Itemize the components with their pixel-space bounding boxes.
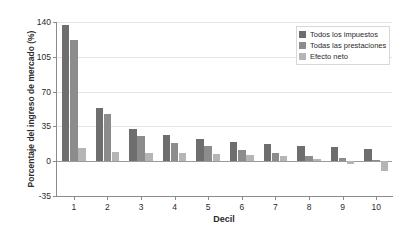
- bar: [204, 146, 212, 161]
- bar: [213, 154, 221, 161]
- x-tick-label: 3: [139, 202, 144, 212]
- legend-item: Todos los impuestos: [299, 29, 386, 40]
- bar-group: [129, 22, 153, 196]
- chart-legend: Todos los impuestosTodas las prestacione…: [296, 26, 390, 65]
- bar: [297, 146, 305, 161]
- bar: [112, 152, 120, 161]
- x-tick-label: 4: [172, 202, 177, 212]
- x-tick-label: 7: [273, 202, 278, 212]
- bar: [163, 135, 171, 161]
- y-tick-label: 140: [37, 17, 51, 27]
- bar-group: [62, 22, 86, 196]
- bar: [62, 25, 70, 161]
- x-tick-label: 5: [206, 202, 211, 212]
- legend-swatch-icon: [299, 53, 306, 60]
- bar: [238, 150, 246, 161]
- y-tick-label: 0: [46, 156, 51, 166]
- bar: [313, 159, 321, 161]
- y-tick-mark: [53, 22, 57, 23]
- y-tick-mark: [53, 57, 57, 58]
- bar: [381, 161, 389, 171]
- legend-swatch-icon: [299, 42, 306, 49]
- x-tick-label: 9: [340, 202, 345, 212]
- legend-label: Efecto neto: [310, 51, 348, 62]
- x-axis-title: Decil: [56, 214, 392, 224]
- y-tick-mark: [53, 126, 57, 127]
- y-tick-label: 70: [42, 87, 51, 97]
- bar-group: [163, 22, 187, 196]
- y-tick-mark: [53, 92, 57, 93]
- x-tick-label: 6: [239, 202, 244, 212]
- bar: [70, 40, 78, 161]
- bar: [246, 155, 254, 161]
- legend-label: Todas las prestaciones: [310, 40, 386, 51]
- bar: [372, 160, 380, 161]
- bar: [264, 144, 272, 161]
- bar: [364, 149, 372, 161]
- y-tick-label: 35: [42, 121, 51, 131]
- x-tick-label: 10: [371, 202, 380, 212]
- bar: [78, 148, 86, 161]
- bar: [96, 108, 104, 162]
- bar: [129, 129, 137, 161]
- bar: [339, 158, 347, 161]
- bar: [331, 147, 339, 161]
- chart-figure: Porcentaje del ingreso de mercado (%) 14…: [0, 0, 407, 239]
- bar-group: [96, 22, 120, 196]
- legend-swatch-icon: [299, 31, 306, 38]
- y-tick-mark: [53, 161, 57, 162]
- x-axis-line: [57, 196, 393, 197]
- bar: [104, 114, 112, 161]
- bar: [230, 142, 238, 161]
- bar-group: [264, 22, 288, 196]
- y-tick-label: -35: [39, 191, 51, 201]
- bar: [280, 156, 288, 161]
- bar: [171, 143, 179, 161]
- bar: [137, 136, 145, 161]
- bar: [145, 153, 153, 161]
- bar: [179, 153, 187, 161]
- x-tick-label: 1: [71, 202, 76, 212]
- x-tick-label: 8: [307, 202, 312, 212]
- legend-label: Todos los impuestos: [310, 29, 378, 40]
- y-axis-title: Porcentaje del ingreso de mercado (%): [26, 14, 36, 204]
- y-tick-label: 105: [37, 52, 51, 62]
- x-tick-label: 2: [105, 202, 110, 212]
- bar-group: [196, 22, 220, 196]
- bar: [305, 156, 313, 161]
- bar: [272, 153, 280, 161]
- legend-item: Efecto neto: [299, 51, 386, 62]
- legend-item: Todas las prestaciones: [299, 40, 386, 51]
- bar-group: [230, 22, 254, 196]
- bar: [196, 139, 204, 161]
- bar: [347, 161, 355, 164]
